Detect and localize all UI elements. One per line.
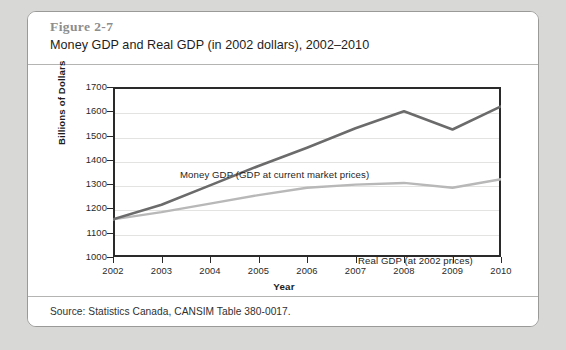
- figure-title: Money GDP and Real GDP (in 2002 dollars)…: [50, 36, 538, 54]
- y-tick-label: 1100: [67, 227, 107, 238]
- x-axis-title: Year: [28, 281, 539, 292]
- y-tick-label: 1700: [67, 81, 107, 92]
- figure-footer: Source: Statistics Canada, CANSIM Table …: [28, 296, 538, 326]
- series-label-real-gdp: Real GDP (at 2002 prices): [358, 255, 473, 266]
- series-line-real-gdp: [113, 179, 501, 219]
- x-tick-label: 2007: [331, 265, 381, 276]
- series-label-money-gdp: Money GDP (GDP at current market prices): [180, 169, 369, 180]
- x-tick-mark: [162, 257, 163, 263]
- x-tick-label: 2005: [234, 265, 284, 276]
- x-tick-mark: [356, 257, 357, 263]
- y-tick-label: 1500: [67, 130, 107, 141]
- figure-body: Billions of Dollars 10001100120013001400…: [28, 65, 538, 297]
- y-tick-label: 1400: [67, 154, 107, 165]
- x-tick-mark: [501, 257, 502, 263]
- figure-number: Figure 2-7: [50, 18, 538, 35]
- x-tick-label: 2010: [476, 265, 526, 276]
- figure-header: Figure 2-7 Money GDP and Real GDP (in 20…: [28, 12, 538, 65]
- y-tick-label: 1300: [67, 178, 107, 189]
- y-tick-label: 1600: [67, 105, 107, 116]
- series-line-money-gdp: [113, 106, 501, 219]
- x-tick-label: 2003: [137, 265, 187, 276]
- x-tick-label: 2004: [185, 265, 235, 276]
- y-axis-title: Billions of Dollars: [56, 61, 67, 145]
- source-note: Source: Statistics Canada, CANSIM Table …: [50, 306, 291, 317]
- x-tick-label: 2008: [379, 265, 429, 276]
- figure-card: Figure 2-7 Money GDP and Real GDP (in 20…: [27, 11, 539, 327]
- x-tick-mark: [113, 257, 114, 263]
- y-tick-label: 1200: [67, 202, 107, 213]
- x-tick-label: 2006: [282, 265, 332, 276]
- x-tick-label: 2002: [88, 265, 138, 276]
- x-tick-mark: [210, 257, 211, 263]
- x-tick-mark: [259, 257, 260, 263]
- x-tick-label: 2009: [428, 265, 478, 276]
- line-chart: Billions of Dollars 10001100120013001400…: [28, 65, 539, 297]
- y-tick-label: 1000: [67, 251, 107, 262]
- x-tick-mark: [307, 257, 308, 263]
